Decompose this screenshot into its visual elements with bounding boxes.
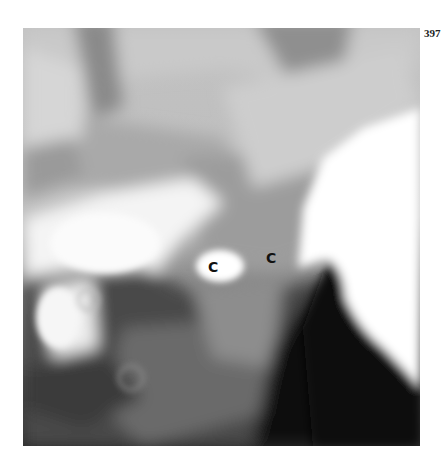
radiograph-image [23,28,420,446]
figure-label-c-2: C [266,251,276,265]
radiograph-figure: C C [23,28,420,446]
page-number: 397 [424,27,441,39]
figure-label-c-1: C [208,260,218,274]
